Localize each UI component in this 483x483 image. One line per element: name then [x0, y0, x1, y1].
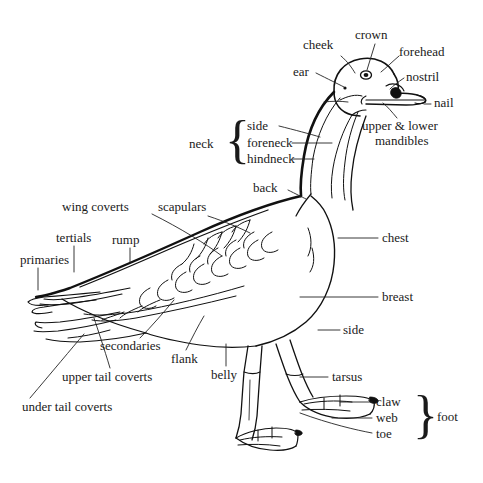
label-wing-coverts: wing coverts: [62, 200, 129, 215]
near-foot-toe-line-1: [240, 437, 282, 440]
label-tertials: tertials: [56, 231, 91, 246]
far-leg-joint: [286, 374, 303, 376]
covert-4: [193, 264, 210, 284]
label-tarsus: tarsus: [332, 370, 362, 385]
scapular-feather-1: [238, 220, 250, 242]
label-secondaries: secondaries: [100, 339, 161, 354]
covert-6: [157, 280, 174, 300]
chest-breast-outline: [256, 196, 335, 346]
label-back: back: [253, 181, 278, 196]
label-hindneck: hindneck: [247, 152, 295, 167]
covert-upper-3: [225, 240, 236, 256]
under-tail-covert-2: [68, 330, 110, 338]
foot-brace: }: [413, 389, 438, 441]
covert-5: [175, 272, 192, 292]
goose-anatomy-diagram: cheek crown forehead ear nostril nail up…: [0, 0, 483, 483]
covert-3: [211, 256, 228, 276]
leader-crown: [367, 44, 375, 70]
near-foot-claw: [295, 430, 302, 436]
near-leg-inner: [252, 346, 262, 440]
label-upper-tail-coverts: upper tail coverts: [62, 370, 152, 385]
leader-toe: [300, 413, 372, 433]
label-ear: ear: [293, 65, 309, 80]
covert-upper-1: [261, 232, 278, 252]
eye-pupil: [364, 73, 369, 77]
secondary-feather-2: [92, 296, 236, 321]
chin-line: [352, 110, 366, 115]
covert-upper-6: [171, 264, 182, 280]
bill-nail: [415, 95, 426, 104]
neck-side-line: [331, 115, 352, 198]
leader-ear: [316, 73, 344, 87]
label-foot: foot: [437, 410, 458, 425]
label-flank: flank: [171, 352, 198, 367]
label-nail: nail: [434, 96, 454, 111]
leader-secondaries: [140, 300, 174, 338]
label-claw: claw: [376, 395, 401, 410]
label-neck-side: side: [247, 119, 268, 134]
label-crown: crown: [355, 28, 388, 43]
far-leg-outer: [276, 344, 300, 402]
label-scapulars: scapulars: [158, 200, 206, 215]
label-neck: neck: [189, 137, 214, 152]
covert-2: [229, 248, 246, 268]
far-leg-inner: [290, 340, 313, 397]
leader-under-tail-coverts: [30, 334, 84, 398]
near-foot-toe-line-2: [238, 444, 280, 446]
label-cheek: cheek: [303, 38, 333, 53]
chest-feather-curve: [308, 228, 311, 256]
far-foot-toe-line-1: [304, 401, 352, 404]
label-side: side: [343, 323, 364, 338]
hindneck-inner-line: [311, 98, 340, 194]
covert-upper-2: [243, 232, 254, 248]
label-rump: rump: [112, 233, 139, 248]
label-web: web: [376, 411, 398, 426]
label-under-tail-coverts: under tail coverts: [22, 400, 112, 415]
label-chest: chest: [382, 231, 409, 246]
covert-upper-5: [189, 256, 200, 272]
near-leg-joint: [244, 372, 260, 374]
label-nostril: nostril: [406, 70, 439, 85]
label-breast: breast: [382, 290, 413, 305]
label-mandibles-line1: upper & lower: [362, 119, 438, 134]
label-belly: belly: [211, 368, 237, 383]
far-foot-toe-line-2: [302, 409, 350, 411]
cheek-divider-line: [340, 95, 362, 100]
hindneck-outline: [301, 92, 334, 196]
leader-cheek: [341, 56, 355, 73]
label-toe: toe: [376, 427, 392, 442]
upper-tail-covert-2: [34, 320, 116, 332]
label-primaries: primaries: [20, 253, 69, 268]
bill-base-line: [361, 96, 366, 104]
scapular-feather-5: [182, 244, 194, 264]
flank-outline: [62, 299, 146, 333]
leader-forehead: [381, 56, 399, 72]
near-leg-scale-line: [249, 380, 250, 420]
near-leg-outer: [236, 346, 248, 438]
label-foreneck: foreneck: [247, 136, 292, 151]
label-forehead: forehead: [399, 45, 444, 60]
label-mandibles-line2: mandibles: [375, 134, 428, 149]
chest-feather-curve-2: [310, 248, 314, 272]
belly-outline: [146, 333, 256, 347]
